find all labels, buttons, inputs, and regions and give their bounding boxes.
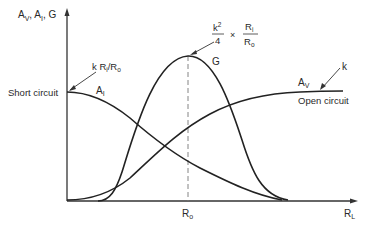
av-curve-label: AV: [298, 77, 310, 89]
g-pointer-arrowhead-icon: [190, 50, 197, 55]
k-asymptote-label: k: [342, 61, 348, 72]
x-axis-label: RL: [344, 208, 355, 220]
y-axis-label: AV, AI, G: [18, 9, 57, 22]
ro-tick-label: Ro: [182, 208, 193, 220]
curve-ai: [67, 92, 282, 200]
open-circuit-label: Open circuit: [298, 95, 349, 106]
curve-g: [98, 56, 288, 201]
ai-peak-annotation: k Ri/Ro: [92, 61, 121, 73]
y-axis-arrow-icon: [65, 8, 70, 16]
g-curve-label: G: [212, 56, 220, 67]
gain-vs-load-chart: AV, AI, G RL Ro Short circuit k Ri/Ro AI…: [0, 0, 369, 226]
svg-text:Ri: Ri: [245, 21, 253, 33]
curve-av: [67, 91, 343, 200]
x-axis-arrow-icon: [350, 199, 358, 204]
k-pointer: [322, 68, 340, 88]
ai-pointer-arrowhead-icon: [69, 85, 76, 91]
g-peak-annotation: k2 4 × Ri Ro: [212, 21, 258, 48]
svg-text:×: ×: [230, 30, 235, 40]
svg-text:4: 4: [215, 35, 220, 46]
short-circuit-label: Short circuit: [8, 87, 59, 98]
svg-text:k2: k2: [213, 21, 222, 33]
svg-text:Ro: Ro: [244, 36, 255, 48]
ai-curve-label: AI: [96, 85, 105, 97]
